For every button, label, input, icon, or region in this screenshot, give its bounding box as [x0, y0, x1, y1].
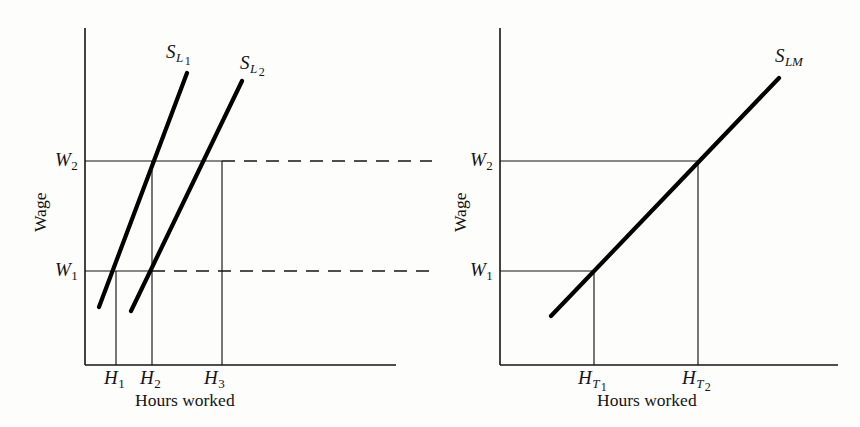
right-ytick-w2-base: W [470, 149, 486, 170]
curve-label-slm: SLM [775, 46, 803, 68]
curve-label-sl1-sub: L [176, 50, 184, 65]
left-ytick-w2: W2 [55, 150, 78, 172]
left-xtick-h1-base: H [104, 367, 118, 388]
left-ytick-w1-base: W [55, 259, 71, 280]
curve-sl2 [131, 81, 242, 311]
right-x-axis-label: Hours worked [597, 392, 697, 410]
left-xtick-h1-sub: 1 [118, 376, 125, 391]
left-y-axis-label: Wage [32, 193, 50, 232]
left-panel-axes [85, 28, 396, 365]
left-xtick-h2: H2 [140, 368, 161, 390]
right-ytick-w2-sub: 2 [486, 158, 493, 173]
left-xtick-h3-base: H [204, 367, 218, 388]
right-ytick-w1-sub: 1 [486, 268, 493, 283]
right-ytick-w1: W1 [470, 260, 493, 282]
left-panel-curves [99, 73, 242, 311]
right-panel-curves [551, 78, 779, 316]
curve-label-slm-base: S [775, 45, 785, 66]
curve-label-sl1: SL1 [166, 42, 191, 67]
right-xtick-ht1: HT1 [578, 368, 607, 393]
curve-label-sl1-index: 1 [183, 54, 191, 68]
right-xtick-ht2-index: 2 [703, 380, 711, 394]
right-y-axis-label: Wage [452, 193, 470, 232]
right-ytick-w1-base: W [470, 259, 486, 280]
curve-label-sl2: SL2 [240, 53, 265, 78]
right-xtick-ht1-index: 1 [599, 380, 607, 394]
left-xtick-h3: H3 [204, 368, 225, 390]
curve-slm [551, 78, 779, 316]
curve-sl1 [99, 73, 187, 307]
right-xtick-ht1-base: H [578, 367, 592, 388]
right-xtick-ht2-base: H [682, 367, 696, 388]
left-ytick-w1: W1 [55, 260, 78, 282]
left-panel-guides [85, 161, 432, 365]
curve-label-sl2-sub: L [250, 61, 258, 76]
curve-label-sl1-base: S [166, 41, 176, 62]
labour-supply-figure: Wage Hours worked W2 W1 H1 H2 H3 SL1 SL2… [0, 0, 860, 427]
left-x-axis-label: Hours worked [135, 392, 235, 410]
curve-label-slm-sub: LM [785, 54, 803, 69]
left-xtick-h2-sub: 2 [154, 376, 161, 391]
curve-label-sl2-index: 2 [257, 65, 265, 79]
left-ytick-w2-sub: 2 [71, 158, 78, 173]
left-ytick-w2-base: W [55, 149, 71, 170]
right-ytick-w2: W2 [470, 150, 493, 172]
left-xtick-h2-base: H [140, 367, 154, 388]
right-xtick-ht2: HT2 [682, 368, 711, 393]
figure-canvas [0, 0, 860, 427]
left-ytick-w1-sub: 1 [71, 268, 78, 283]
left-xtick-h3-sub: 3 [218, 376, 225, 391]
left-xtick-h1: H1 [104, 368, 125, 390]
curve-label-sl2-base: S [240, 52, 250, 73]
